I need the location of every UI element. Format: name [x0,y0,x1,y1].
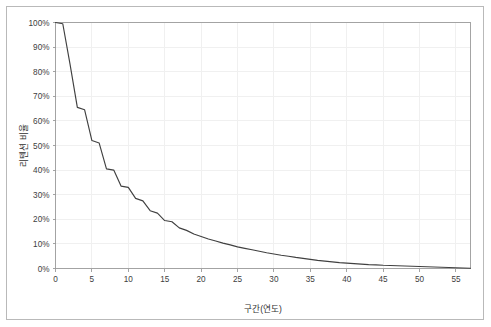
y-tick-label: 20% [33,215,49,224]
x-axis-ticks: 0510152025303540455055 [53,269,461,285]
x-tick-label: 25 [233,275,243,284]
x-tick-label: 5 [90,275,95,284]
y-axis-title: 리텐션 비율 [19,124,29,166]
gridlines [56,23,471,269]
x-tick-label: 40 [342,275,352,284]
x-tick-label: 10 [124,275,134,284]
x-tick-label: 0 [53,275,58,284]
y-tick-label: 10% [33,240,49,249]
x-axis-title: 구간(연도) [244,304,282,314]
y-tick-label: 80% [33,68,49,77]
x-tick-label: 30 [269,275,279,284]
y-tick-label: 90% [33,43,49,52]
y-tick-label: 30% [33,191,49,200]
y-tick-label: 100% [29,19,50,28]
x-tick-label: 20 [197,275,207,284]
y-tick-label: 0% [38,265,50,274]
x-tick-label: 45 [379,275,389,284]
y-tick-label: 40% [33,166,49,175]
y-axis-ticks: 0%10%20%30%40%50%60%70%80%90%100% [29,19,56,274]
y-tick-label: 50% [33,142,49,151]
chart-figure: 0510152025303540455055 0%10%20%30%40%50%… [0,0,491,327]
x-tick-label: 35 [306,275,316,284]
y-tick-label: 70% [33,92,49,101]
x-tick-label: 55 [451,275,461,284]
x-tick-label: 15 [160,275,170,284]
y-tick-label: 60% [33,117,49,126]
retention-line-chart: 0510152025303540455055 0%10%20%30%40%50%… [0,0,491,327]
x-tick-label: 50 [415,275,425,284]
